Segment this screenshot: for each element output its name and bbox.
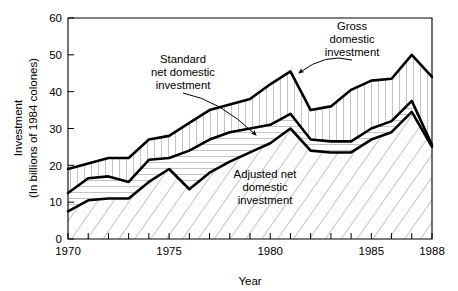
annotation-line: domestic — [242, 181, 288, 193]
investment-chart: 0102030405060 19701975198019851988 Year … — [0, 0, 458, 291]
y-axis-title-line1: Investment — [12, 99, 24, 156]
annotation-line: Standard — [160, 53, 206, 65]
x-axis-tick-labels: 19701975198019851988 — [55, 245, 445, 257]
chart-canvas: 0102030405060 19701975198019851988 Year … — [0, 0, 458, 291]
annotation-line: investment — [156, 79, 211, 91]
plot-areas — [68, 55, 432, 239]
x-axis-tick-label: 1988 — [419, 245, 445, 257]
y-axis-tick-label: 60 — [49, 12, 62, 24]
annotation-line: investment — [325, 46, 380, 58]
annotation-label-gross: Grossdomesticinvestment — [325, 20, 380, 58]
y-axis-tick-label: 20 — [49, 160, 62, 172]
y-axis-tick-label: 0 — [56, 233, 62, 245]
annotation-label-standard: Standardnet domesticinvestment — [151, 53, 215, 91]
y-axis-tick-label: 30 — [49, 123, 62, 135]
y-axis-tick-label: 50 — [49, 49, 62, 61]
annotation-line: investment — [238, 194, 293, 206]
annotation-line: Adjusted net — [234, 168, 298, 180]
x-axis-tick-label: 1970 — [55, 245, 81, 257]
annotation-line: domestic — [329, 33, 375, 45]
x-axis-title: Year — [238, 275, 261, 287]
y-axis-tick-label: 10 — [49, 196, 62, 208]
annotation-line: net domestic — [151, 66, 215, 78]
y-axis-title-line2: (In billions of 1984 colones) — [27, 58, 39, 198]
x-axis-tick-label: 1975 — [156, 245, 182, 257]
annotation-line: Gross — [337, 20, 367, 32]
y-axis-tick-label: 40 — [49, 86, 62, 98]
annotation-leader-gross — [299, 58, 352, 73]
y-axis-tick-labels: 0102030405060 — [49, 12, 62, 245]
x-axis-tick-label: 1980 — [257, 245, 283, 257]
x-axis-tick-label: 1985 — [359, 245, 385, 257]
